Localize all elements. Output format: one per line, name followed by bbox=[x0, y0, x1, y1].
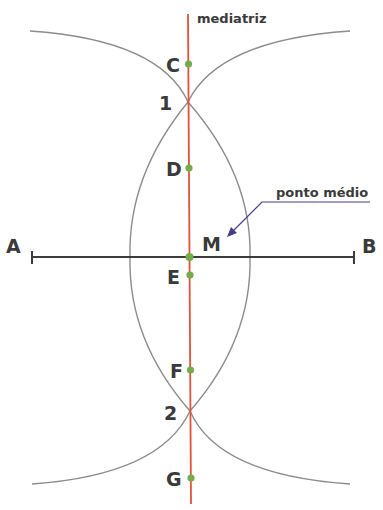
point-f bbox=[187, 366, 194, 373]
point-d bbox=[185, 164, 192, 171]
label-f: F bbox=[170, 360, 183, 382]
label-e: E bbox=[167, 266, 180, 288]
point-g bbox=[187, 474, 194, 481]
point-e bbox=[186, 271, 193, 278]
label-b: B bbox=[362, 235, 376, 257]
label-1: 1 bbox=[159, 92, 172, 114]
label-2: 2 bbox=[164, 402, 177, 424]
ponto-medio-pointer-line bbox=[232, 202, 370, 232]
point-c bbox=[185, 60, 192, 67]
label-g: G bbox=[166, 468, 182, 490]
perpendicular-bisector-diagram: mediatriz ponto médio A B C 1 D M E F 2 … bbox=[0, 0, 383, 510]
label-m: M bbox=[202, 233, 221, 255]
mediatriz-label: mediatriz bbox=[197, 11, 267, 26]
point-m bbox=[186, 253, 194, 261]
label-a: A bbox=[6, 235, 21, 257]
label-d: D bbox=[166, 158, 182, 180]
ponto-medio-label: ponto médio bbox=[276, 185, 368, 200]
label-c: C bbox=[166, 54, 180, 76]
